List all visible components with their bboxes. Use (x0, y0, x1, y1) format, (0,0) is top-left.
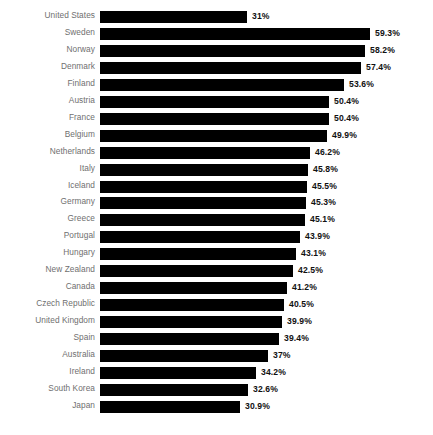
value-label: 45.3% (311, 196, 336, 209)
bar (100, 147, 310, 159)
category-label: Sweden (0, 26, 95, 39)
bar-row: Canada41.2% (0, 282, 433, 294)
bar-row: Hungary43.1% (0, 248, 433, 260)
bar-row: New Zealand42.5% (0, 265, 433, 277)
bar-row: Germany45.3% (0, 197, 433, 209)
bar (100, 164, 308, 176)
bar-row: United States31% (0, 11, 433, 23)
value-label: 42.5% (298, 264, 323, 277)
category-label: Hungary (0, 246, 95, 259)
bar-row: Belgium49.9% (0, 130, 433, 142)
bar-row: Denmark57.4% (0, 62, 433, 74)
bar (100, 28, 370, 40)
bar-row: South Korea32.6% (0, 384, 433, 396)
bar (100, 62, 361, 74)
bar (100, 248, 296, 260)
bar (100, 96, 329, 108)
bar (100, 350, 268, 362)
category-label: Finland (0, 77, 95, 90)
category-label: Germany (0, 195, 95, 208)
bar (100, 299, 284, 311)
bar (100, 231, 300, 243)
category-label: Ireland (0, 365, 95, 378)
bar-row: Sweden59.3% (0, 28, 433, 40)
bar-row: Iceland45.5% (0, 181, 433, 193)
category-label: France (0, 111, 95, 124)
value-label: 30.9% (245, 400, 270, 413)
category-label: Australia (0, 348, 95, 361)
value-label: 59.3% (375, 27, 400, 40)
bar-row: Spain39.4% (0, 333, 433, 345)
bar-chart: United States31%Sweden59.3%Norway58.2%De… (0, 0, 433, 435)
bar (100, 11, 247, 23)
value-label: 43.9% (305, 230, 330, 243)
value-label: 43.1% (301, 247, 326, 260)
value-label: 50.4% (334, 95, 359, 108)
value-label: 39.9% (287, 315, 312, 328)
bar (100, 367, 256, 379)
value-label: 50.4% (334, 112, 359, 125)
value-label: 37% (273, 349, 291, 362)
value-label: 46.2% (315, 146, 340, 159)
bar-row: Austria50.4% (0, 96, 433, 108)
category-label: Portugal (0, 229, 95, 242)
bar (100, 181, 307, 193)
category-label: Netherlands (0, 145, 95, 158)
category-label: New Zealand (0, 263, 95, 276)
category-label: Austria (0, 94, 95, 107)
value-label: 53.6% (349, 78, 374, 91)
bar (100, 316, 282, 328)
bar-row: Greece45.1% (0, 214, 433, 226)
bar (100, 282, 287, 294)
bar-row: Czech Republic40.5% (0, 299, 433, 311)
category-label: Iceland (0, 179, 95, 192)
bar-row: United Kingdom39.9% (0, 316, 433, 328)
category-label: Czech Republic (0, 297, 95, 310)
value-label: 57.4% (366, 61, 391, 74)
value-label: 45.1% (310, 213, 335, 226)
value-label: 31% (252, 10, 270, 23)
value-label: 34.2% (261, 366, 286, 379)
bar-row: Ireland34.2% (0, 367, 433, 379)
bar (100, 197, 306, 209)
bar (100, 113, 329, 125)
bar-row: France50.4% (0, 113, 433, 125)
category-label: South Korea (0, 382, 95, 395)
category-label: Greece (0, 212, 95, 225)
category-label: Denmark (0, 60, 95, 73)
category-label: United Kingdom (0, 314, 95, 327)
bar (100, 401, 240, 413)
value-label: 39.4% (284, 332, 309, 345)
category-label: Italy (0, 162, 95, 175)
value-label: 45.5% (312, 180, 337, 193)
category-label: Norway (0, 43, 95, 56)
bar-row: Italy45.8% (0, 164, 433, 176)
bar (100, 130, 327, 142)
value-label: 40.5% (289, 298, 314, 311)
value-label: 49.9% (332, 129, 357, 142)
bar (100, 214, 305, 226)
bar (100, 45, 365, 57)
value-label: 41.2% (292, 281, 317, 294)
bar (100, 384, 248, 396)
bar-row: Finland53.6% (0, 79, 433, 91)
bar (100, 79, 344, 91)
bar-row: Japan30.9% (0, 401, 433, 413)
value-label: 32.6% (253, 383, 278, 396)
value-label: 58.2% (370, 44, 395, 57)
category-label: Japan (0, 399, 95, 412)
bar-row: Portugal43.9% (0, 231, 433, 243)
category-label: Canada (0, 280, 95, 293)
value-label: 45.8% (313, 163, 338, 176)
bar (100, 333, 279, 345)
bar-row: Norway58.2% (0, 45, 433, 57)
bar (100, 265, 293, 277)
category-label: United States (0, 9, 95, 22)
category-label: Belgium (0, 128, 95, 141)
bar-row: Australia37% (0, 350, 433, 362)
category-label: Spain (0, 331, 95, 344)
bar-row: Netherlands46.2% (0, 147, 433, 159)
